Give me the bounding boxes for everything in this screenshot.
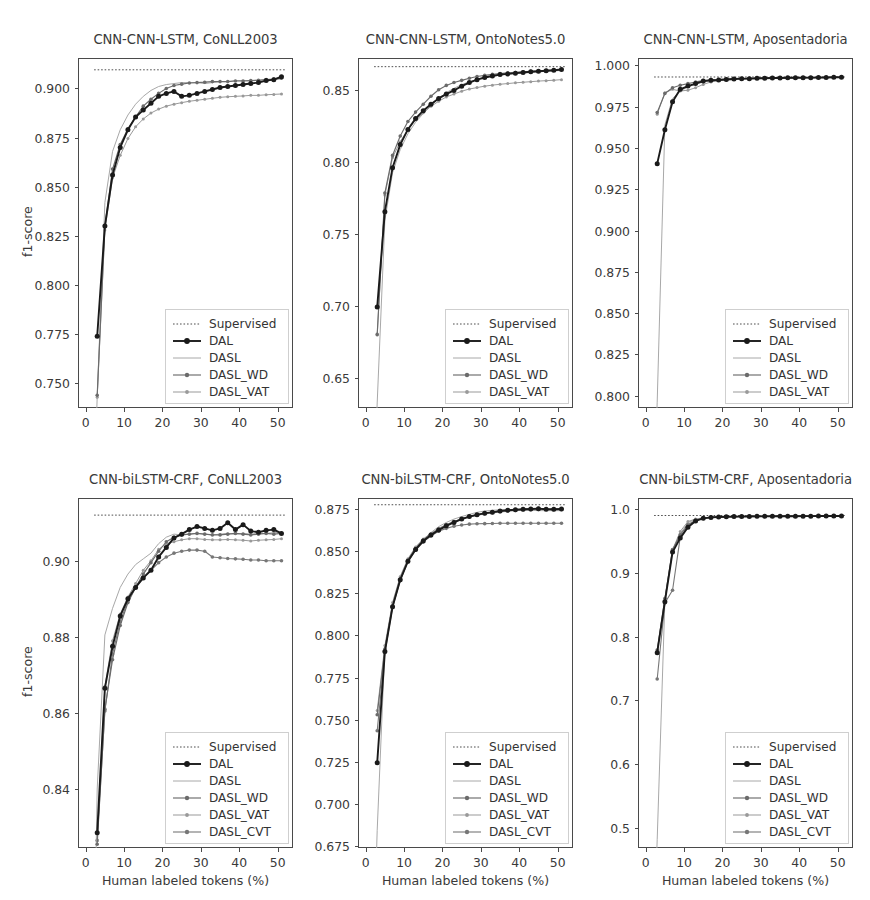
legend-item-dasl-vat[interactable]: DASL_VAT [452,383,561,400]
legend-label: DASL [209,351,241,365]
y-tick-label: 0.86 [10,705,70,720]
chart-panel-p4: CNN-biLSTM-CRF, OntoNotes5.00.6750.7000.… [286,466,573,896]
x-tick-mark [761,848,762,852]
y-tick-label: 0.850 [570,306,630,321]
chart-legend[interactable]: SupervisedDALDASLDASL_WDDASL_VAT [165,309,289,404]
legend-item-dasl-cvt[interactable]: DASL_CVT [732,823,841,840]
legend-label: DAL [769,334,793,348]
legend-item-dasl-wd[interactable]: DASL_WD [452,366,561,383]
x-tick-mark [761,408,762,412]
legend-label: DASL_CVT [489,825,551,839]
x-tick-mark [722,848,723,852]
x-tick-mark [442,848,443,852]
legend-item-dasl[interactable]: DASL [732,349,841,366]
x-tick-mark [366,408,367,412]
legend-swatch-dasl-wd [452,368,482,382]
series-dasl-cvt [375,522,563,733]
chart-legend[interactable]: SupervisedDALDASLDASL_WDDASL_VAT [445,309,569,404]
legend-label: DASL [489,774,521,788]
legend-item-dasl-wd[interactable]: DASL_WD [172,789,281,806]
x-tick-mark [404,848,405,852]
legend-item-dasl-wd[interactable]: DASL_WD [732,366,841,383]
legend-swatch-dasl [452,351,482,365]
y-tick-label: 0.975 [570,99,630,114]
legend-item-dasl-vat[interactable]: DASL_VAT [732,383,841,400]
legend-item-dasl[interactable]: DASL [452,349,561,366]
legend-item-supervised[interactable]: Supervised [732,315,841,332]
legend-item-dasl-vat[interactable]: DASL_VAT [172,383,281,400]
legend-swatch-dasl-vat [172,385,202,399]
x-tick-label: 10 [676,855,692,870]
x-tick-label: 20 [715,855,731,870]
x-tick-mark [838,408,839,412]
legend-item-dasl-vat[interactable]: DASL_VAT [172,806,281,823]
legend-label: DASL_WD [209,368,268,382]
legend-item-supervised[interactable]: Supervised [172,738,281,755]
y-tick-label: 0.900 [10,81,70,96]
legend-item-dasl-wd[interactable]: DASL_WD [172,366,281,383]
y-tick-label: 0.925 [570,182,630,197]
legend-swatch-dasl-wd [452,791,482,805]
legend-label: Supervised [209,317,276,331]
legend-item-dal[interactable]: DAL [172,755,281,772]
legend-item-supervised[interactable]: Supervised [172,315,281,332]
legend-label: Supervised [489,317,556,331]
legend-item-dasl-vat[interactable]: DASL_VAT [732,806,841,823]
legend-swatch-dasl-wd [732,368,762,382]
x-tick-label: 10 [396,415,412,430]
y-tick-label: 0.700 [290,797,350,812]
legend-item-dal[interactable]: DAL [732,332,841,349]
x-tick-label: 30 [753,415,769,430]
chart-legend[interactable]: SupervisedDALDASLDASL_WDDASL_VATDASL_CVT [165,732,289,844]
legend-item-dasl-wd[interactable]: DASL_WD [452,789,561,806]
legend-swatch-dasl [172,351,202,365]
legend-item-dal[interactable]: DAL [452,332,561,349]
legend-item-dasl-wd[interactable]: DASL_WD [732,789,841,806]
x-tick-label: 10 [676,415,692,430]
x-tick-label: 50 [550,415,566,430]
legend-item-dasl[interactable]: DASL [172,349,281,366]
y-tick-label: 0.725 [290,754,350,769]
legend-item-dasl-vat[interactable]: DASL_VAT [452,806,561,823]
x-tick-label: 20 [715,415,731,430]
legend-swatch-supervised [172,317,202,331]
chart-legend[interactable]: SupervisedDALDASLDASL_WDDASL_VAT [725,309,849,404]
series-dasl-wd [375,68,563,336]
legend-label: DASL_CVT [209,825,271,839]
x-tick-label: 0 [642,855,650,870]
legend-item-supervised[interactable]: Supervised [452,315,561,332]
y-tick-label: 0.775 [10,327,70,342]
x-tick-mark [722,408,723,412]
legend-item-dal[interactable]: DAL [452,755,561,772]
x-tick-mark [481,408,482,412]
x-tick-mark [558,408,559,412]
x-tick-label: 50 [550,855,566,870]
x-tick-mark [838,848,839,852]
legend-item-dal[interactable]: DAL [732,755,841,772]
legend-item-dasl-cvt[interactable]: DASL_CVT [172,823,281,840]
legend-item-dasl[interactable]: DASL [172,772,281,789]
x-axis-label: Human labeled tokens (%) [78,873,293,888]
legend-item-dasl[interactable]: DASL [732,772,841,789]
x-tick-label: 40 [511,855,527,870]
series-dal [375,67,564,309]
x-tick-mark [278,848,279,852]
y-tick-label: 0.775 [290,670,350,685]
legend-swatch-dasl-vat [452,385,482,399]
x-tick-mark [684,408,685,412]
x-tick-label: 50 [830,855,846,870]
series-dal [655,514,844,656]
panel-title: CNN-biLSTM-CRF, Aposentadoria [638,472,853,487]
legend-label: Supervised [769,317,836,331]
chart-legend[interactable]: SupervisedDALDASLDASL_WDDASL_VATDASL_CVT [445,732,569,844]
legend-item-dal[interactable]: DAL [172,332,281,349]
legend-item-supervised[interactable]: Supervised [452,738,561,755]
legend-item-supervised[interactable]: Supervised [732,738,841,755]
x-tick-mark [481,848,482,852]
chart-legend[interactable]: SupervisedDALDASLDASL_WDDASL_VATDASL_CVT [725,732,849,844]
x-tick-label: 40 [511,415,527,430]
series-dal [95,74,284,339]
legend-item-dasl-cvt[interactable]: DASL_CVT [452,823,561,840]
legend-item-dasl[interactable]: DASL [452,772,561,789]
x-tick-label: 0 [362,855,370,870]
